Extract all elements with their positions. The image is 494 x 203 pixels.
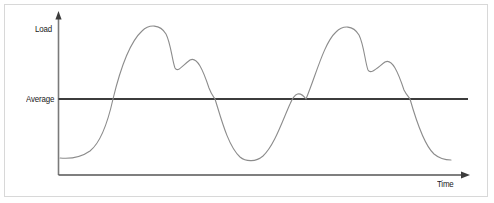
x-axis-label: Time xyxy=(437,179,454,189)
load-curve xyxy=(60,26,451,161)
average-line-label: Average xyxy=(26,94,54,104)
x-axis-arrow-icon xyxy=(461,172,470,179)
y-axis-label: Load xyxy=(35,24,52,34)
y-axis-arrow-icon xyxy=(55,11,61,20)
chart-figure: Load Average Time xyxy=(0,0,494,203)
load-over-time-plot xyxy=(0,0,494,203)
